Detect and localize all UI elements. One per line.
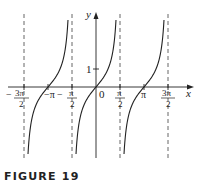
figure-caption: FIGURE 19 xyxy=(4,170,80,183)
tick-label-pi-2-den: 2 xyxy=(118,99,123,109)
x-axis-label: x xyxy=(185,87,191,99)
y-axis-label: y xyxy=(85,8,91,20)
tick-label-3pi-2-num: 3π xyxy=(162,88,172,98)
tick-label-neg-3pi-2-sign: − xyxy=(6,89,12,100)
tick-label-3pi-2-den: 2 xyxy=(166,99,171,109)
tick-label-pi: π xyxy=(141,89,146,100)
tick-label-1: 1 xyxy=(86,63,92,75)
tick-label-neg-pi: −π xyxy=(44,89,55,100)
y-axis-arrow-icon xyxy=(94,12,99,19)
tick-label-neg-pi-2-num: π xyxy=(69,88,74,98)
tick-label-neg-3pi-2-den: 2 xyxy=(19,99,24,109)
tan-graph: y x 1 0 − 3π 2 −π − π 2 π 2 π 3π 2 xyxy=(0,0,201,184)
tick-label-neg-pi-2-sign: − xyxy=(57,89,63,100)
tan-graph-figure: y x 1 0 − 3π 2 −π − π 2 π 2 π 3π 2 FIGUR… xyxy=(0,0,201,184)
origin-label: 0 xyxy=(99,88,105,100)
tick-label-neg-pi-2-den: 2 xyxy=(70,99,75,109)
tick-label-pi-2-num: π xyxy=(117,88,122,98)
tick-label-neg-3pi-2-num: 3π xyxy=(15,88,25,98)
